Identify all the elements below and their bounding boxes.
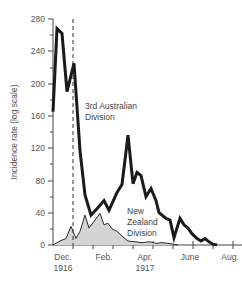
x-tick-june: June (181, 252, 200, 262)
y-tick-0: 0 (40, 240, 45, 250)
nz-label-line1: New (127, 206, 145, 216)
nz-label: New Zealand Division (127, 206, 158, 238)
australian-label-line1: 3rd Australian (85, 101, 137, 111)
nz-label-line2: Zealand (127, 217, 158, 227)
australian-label: 3rd Australian Division (85, 101, 137, 122)
x-tick-dec: Dec. (54, 252, 71, 262)
x-tick-feb: Feb. (95, 252, 112, 262)
y-tick-160: 160 (31, 111, 45, 121)
x-tick-1917: 1917 (136, 263, 155, 273)
x-tick-apr: Apr. (137, 252, 152, 262)
y-tick-280: 280 (31, 14, 45, 24)
y-axis-title: Incidence rate (log scale) (9, 84, 19, 179)
y-tick-120: 120 (31, 143, 45, 153)
australian-label-line2: Division (85, 112, 115, 122)
x-tick-labels: Dec. 1916 Feb. Apr. 1917 June Aug. (54, 252, 239, 273)
x-tick-1916: 1916 (54, 263, 73, 273)
y-tick-80: 80 (36, 176, 46, 186)
y-tick-labels: 280 240 200 160 120 80 40 0 (31, 14, 45, 250)
y-tick-200: 200 (31, 79, 45, 89)
chart-svg: 280 240 200 160 120 80 40 0 Incidence ra… (0, 0, 242, 282)
y-ticks (48, 19, 53, 245)
y-tick-240: 240 (31, 46, 45, 56)
nz-label-line3: Division (127, 228, 157, 238)
y-tick-40: 40 (36, 208, 46, 218)
x-tick-aug: Aug. (221, 252, 239, 262)
